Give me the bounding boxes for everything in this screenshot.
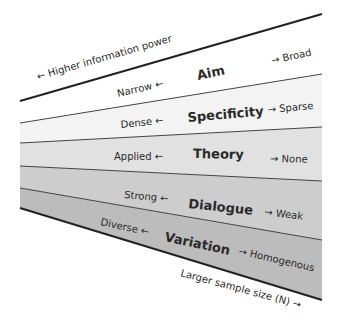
theory-right-label: → None [270, 153, 308, 165]
information-power-diagram: ← Higher information power Narrow ← Aim … [0, 0, 342, 324]
theory-title: Theory [193, 146, 245, 162]
theory-left-label: Applied ← [114, 151, 163, 162]
